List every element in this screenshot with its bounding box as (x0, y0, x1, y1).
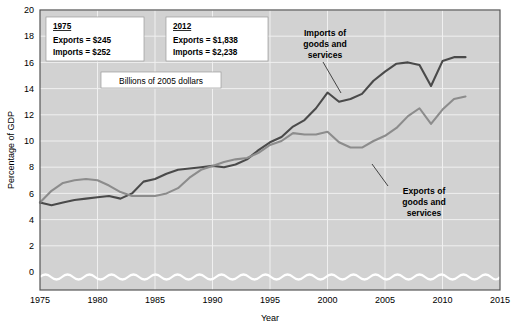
y-tick-20: 20 (24, 5, 34, 15)
y-tick-12: 12 (24, 110, 34, 120)
x-tick-2000: 2000 (317, 295, 337, 305)
economics-line-chart: 02468101214161820 1975198019851990199520… (0, 0, 526, 327)
y-tick-18: 18 (24, 31, 34, 41)
x-tick-1985: 1985 (145, 295, 165, 305)
annotation-note-2012: 2012 Exports = $1,838 Imports = $2,238 (166, 17, 268, 61)
callout-exports-line1: Exports of (403, 186, 446, 196)
x-tick-2005: 2005 (375, 295, 395, 305)
y-tick-10: 10 (24, 136, 34, 146)
note-2012-imports: Imports = $2,238 (173, 48, 238, 57)
callout-exports-line2: goods and (402, 197, 445, 207)
callout-imports-line1: Imports of (304, 28, 346, 38)
chart-figure: 02468101214161820 1975198019851990199520… (0, 0, 526, 327)
y-tick-6: 6 (29, 189, 34, 199)
y-tick-2: 2 (29, 241, 34, 251)
y-tick-16: 16 (24, 58, 34, 68)
y-tick-8: 8 (29, 162, 34, 172)
note-1975-heading: 1975 (53, 22, 72, 31)
callout-exports-line3: services (407, 208, 442, 218)
note-1975-exports: Exports = $245 (53, 36, 111, 45)
y-tick-0: 0 (29, 267, 34, 277)
x-axis-title: Year (261, 313, 279, 323)
note-2012-heading: 2012 (173, 22, 192, 31)
callout-imports-line3: services (308, 50, 343, 60)
y-axis-title: Percentage of GDP (6, 111, 16, 189)
y-tick-14: 14 (24, 84, 34, 94)
note-2012-exports: Exports = $1,838 (173, 36, 238, 45)
x-tick-1980: 1980 (87, 295, 107, 305)
callout-imports-line2: goods and (303, 39, 346, 49)
x-tick-1995: 1995 (260, 295, 280, 305)
annotation-units-box: Billions of 2005 dollars (101, 72, 221, 88)
x-tick-1990: 1990 (202, 295, 222, 305)
note-1975-imports: Imports = $252 (53, 48, 111, 57)
x-axis-tick-labels: 197519801985199019952000200520102015 (30, 295, 510, 305)
units-box-label: Billions of 2005 dollars (119, 76, 203, 86)
y-tick-4: 4 (29, 215, 34, 225)
x-tick-1975: 1975 (30, 295, 50, 305)
x-tick-2010: 2010 (432, 295, 452, 305)
x-tick-2015: 2015 (490, 295, 510, 305)
annotation-note-1975: 1975 Exports = $245 Imports = $252 (46, 17, 144, 61)
